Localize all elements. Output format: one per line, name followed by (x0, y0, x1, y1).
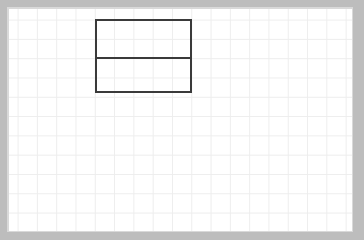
drawing-layer (9, 9, 352, 231)
screenshot-root (0, 0, 364, 240)
outer-rectangle[interactable] (96, 20, 191, 92)
shape-group (96, 20, 191, 92)
drawing-svg (9, 9, 352, 231)
grid-paper-canvas[interactable] (9, 9, 352, 231)
